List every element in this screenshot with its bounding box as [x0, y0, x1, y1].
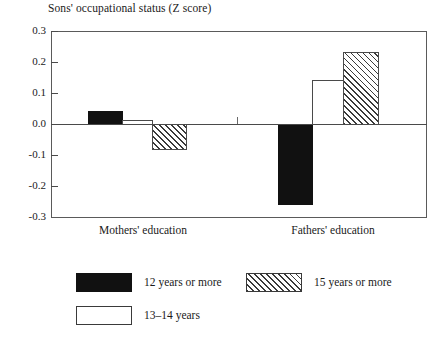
legend-label-15-years-or-more: 15 years or more: [314, 273, 392, 292]
y-tick-mark-5: [51, 186, 58, 187]
y-tick-mark-0: [51, 31, 58, 32]
legend-label-13-14-years: 13–14 years: [144, 306, 200, 325]
y-tick-label-1: 0.2: [12, 56, 46, 67]
bar-mothers-15-years-or-more: [152, 124, 187, 150]
zero-center-tick: [237, 117, 238, 124]
chart-title: Sons' occupational status (Z score): [48, 2, 211, 14]
y-tick-label-3: 0.0: [12, 118, 46, 129]
zero-baseline: [51, 124, 427, 125]
y-tick-label-5: -0.2: [12, 180, 46, 191]
bar-chart-figure: Sons' occupational status (Z score) 0.3 …: [0, 0, 439, 352]
legend-swatch-15-years-or-more: [246, 273, 302, 292]
bar-mothers-12-years-or-more: [88, 111, 123, 125]
legend-label-12-years-or-more: 12 years or more: [144, 273, 222, 292]
category-label-fathers: Fathers' education: [258, 224, 408, 236]
y-tick-mark-1: [51, 62, 58, 63]
y-tick-mark-4: [51, 155, 58, 156]
bar-fathers-15-years-or-more: [343, 52, 379, 125]
y-tick-label-2: 0.1: [12, 87, 46, 98]
legend-swatch-13-14-years: [76, 306, 132, 325]
bar-fathers-13-14-years: [312, 80, 344, 125]
bar-fathers-12-years-or-more: [278, 124, 313, 205]
y-tick-mark-2: [51, 93, 58, 94]
y-tick-label-0: 0.3: [12, 25, 46, 36]
legend-swatch-12-years-or-more: [76, 273, 132, 292]
category-label-mothers: Mothers' education: [68, 224, 218, 236]
y-tick-label-6: -0.3: [12, 211, 46, 222]
y-tick-label-4: -0.1: [12, 149, 46, 160]
